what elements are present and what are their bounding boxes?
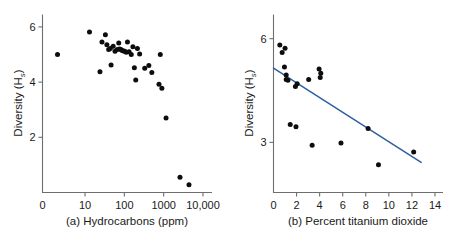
panel-b-plot: 36 02468101214 Diversity (Hs) (b) Percen… xyxy=(228,0,457,240)
data-point xyxy=(277,42,282,47)
data-point xyxy=(283,46,288,51)
data-point xyxy=(99,40,104,45)
panel-a-y-tick-label: 4 xyxy=(29,76,35,88)
data-point xyxy=(282,65,287,70)
panel-b-x-tick-label: 2 xyxy=(294,199,300,211)
scatter-panel-a: 246 010100100010,000 Diversity (Hs) (a) … xyxy=(0,0,228,240)
data-point xyxy=(149,70,154,75)
panel-b-y-axis-title-close: ) xyxy=(243,69,255,73)
data-point xyxy=(130,44,135,49)
data-point xyxy=(142,66,147,71)
panel-a-x-tick-label: 10,000 xyxy=(186,199,220,211)
panel-b-x-tick-label: 12 xyxy=(406,199,418,211)
data-point xyxy=(366,126,371,131)
data-point xyxy=(164,115,169,120)
data-point xyxy=(97,69,102,74)
data-point xyxy=(284,72,289,77)
panel-a-x-ticks: 010100100010,000 xyxy=(39,193,219,211)
panel-a-x-tick-label: 100 xyxy=(115,199,133,211)
data-point xyxy=(159,86,164,91)
data-point xyxy=(111,44,116,49)
panel-b-y-axis-title: Diversity (Hs) xyxy=(243,69,258,136)
panel-b-x-tick-label: 10 xyxy=(383,199,395,211)
panel-a-x-origin-label: 0 xyxy=(39,199,45,211)
data-point xyxy=(129,52,134,57)
panel-b-data-points xyxy=(277,42,416,167)
data-point xyxy=(293,124,298,129)
data-point xyxy=(285,78,290,83)
data-point xyxy=(177,175,182,180)
panel-a-y-tick-label: 6 xyxy=(29,21,35,33)
panel-a-plot: 246 010100100010,000 Diversity (Hs) (a) … xyxy=(0,0,228,240)
data-point xyxy=(295,81,300,86)
data-point xyxy=(109,63,114,68)
data-point xyxy=(137,51,142,56)
panel-b-x-tick-label: 14 xyxy=(429,199,441,211)
data-point xyxy=(186,182,191,187)
data-point xyxy=(116,40,121,45)
panel-a-caption: (a) Hydrocarbons (ppm) xyxy=(66,215,188,227)
panel-b-x-tick-label: 0 xyxy=(270,199,276,211)
data-point xyxy=(132,65,137,70)
data-point xyxy=(310,143,315,148)
data-point xyxy=(125,40,130,45)
panel-b-x-tick-label: 8 xyxy=(363,199,369,211)
panel-b-y-axis-title-main: Diversity (H xyxy=(243,77,255,136)
data-point xyxy=(135,46,140,51)
data-point xyxy=(376,162,381,167)
panel-a-y-ticks: 246 xyxy=(29,21,42,143)
data-point xyxy=(55,52,60,57)
panel-a-y-tick-label: 2 xyxy=(29,131,35,143)
data-point xyxy=(318,71,323,76)
panel-a-x-tick-label: 10 xyxy=(79,199,91,211)
data-point xyxy=(133,77,138,82)
panel-a-data-points xyxy=(55,29,191,187)
panel-b-caption: (b) Percent titanium dioxide xyxy=(288,215,428,227)
scatter-panel-b: 36 02468101214 Diversity (Hs) (b) Percen… xyxy=(228,0,457,240)
data-point xyxy=(288,122,293,127)
data-point xyxy=(103,32,108,37)
panel-b-x-tick-label: 4 xyxy=(317,199,323,211)
panel-b-axes xyxy=(274,15,444,193)
data-point xyxy=(87,29,92,34)
panel-b-y-tick-label: 6 xyxy=(260,33,266,45)
data-point xyxy=(338,141,343,146)
data-point xyxy=(158,52,163,57)
panel-b-x-tick-label: 6 xyxy=(340,199,346,211)
panel-a-x-tick-label: 1000 xyxy=(151,199,175,211)
panel-a-y-axis-title-main: Diversity (H xyxy=(12,77,24,136)
panel-b-y-ticks: 36 xyxy=(260,33,273,149)
data-point xyxy=(280,50,285,55)
data-point xyxy=(146,63,151,68)
panel-b-x-ticks: 02468101214 xyxy=(270,193,441,211)
panel-a-y-axis-title: Diversity (Hs) xyxy=(12,69,27,136)
figure-container: 246 010100100010,000 Diversity (Hs) (a) … xyxy=(0,0,457,240)
panel-b-y-tick-label: 3 xyxy=(260,136,266,148)
data-point xyxy=(411,150,416,155)
data-point xyxy=(306,77,311,82)
panel-a-y-axis-title-close: ) xyxy=(12,69,24,73)
